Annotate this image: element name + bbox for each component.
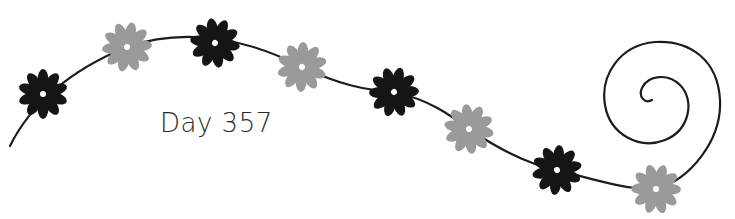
flower-icon [631, 163, 682, 215]
flower-icon [18, 69, 69, 119]
flower-icon [436, 95, 503, 162]
flower-icon [97, 17, 158, 77]
floral-vine-illustration [0, 0, 735, 219]
flower-icon [359, 57, 430, 128]
flower-icon [266, 32, 337, 103]
flower-icon [527, 140, 587, 200]
day-caption: Day 357 [160, 108, 273, 138]
flowers-group [18, 9, 682, 215]
